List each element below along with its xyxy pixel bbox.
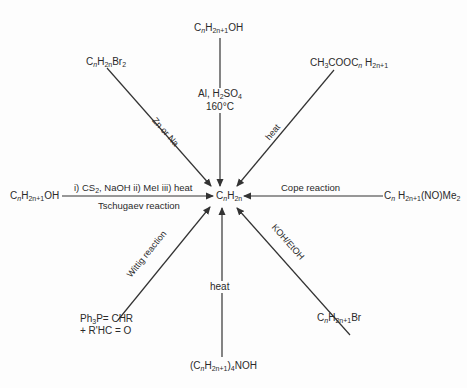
reactant-wittig-carbonyl: + R'HC = O	[80, 325, 131, 337]
reactant-dibromide: CnH2nBr2	[86, 56, 126, 71]
reactant-amine-oxide: Cn H2n+1(NO)Me2	[384, 190, 460, 205]
reaction-diagram: CnH2n CnH2n+1OH CnH2nBr2 CH3COOCn H2n+1 …	[0, 0, 467, 388]
arrow-top-right	[237, 70, 334, 186]
product-alkene: CnH2n	[216, 190, 242, 205]
reactant-ammonium-hydroxide: (CnH2n+1)4NOH	[190, 360, 257, 375]
reactant-left-alcohol: CnH2n+1OH	[10, 190, 59, 205]
condition-cope-reaction: Cope reaction	[281, 182, 340, 194]
reactant-top-alcohol: CnH2n+1OH	[194, 22, 243, 37]
reactant-alkyl-bromide: CnH2n+1Br	[317, 312, 361, 327]
reactant-ester: CH3COOCn H2n+1	[310, 57, 388, 72]
condition-tschugaev-reagents: i) CS2, NaOH ii) MeI iii) heat	[74, 182, 192, 197]
condition-tschugaev-name: Tschugaev reaction	[98, 200, 180, 212]
condition-top-temperature: 160°C	[206, 101, 234, 113]
condition-heat-bottom: heat	[210, 281, 229, 293]
